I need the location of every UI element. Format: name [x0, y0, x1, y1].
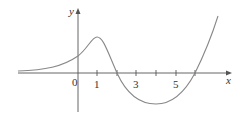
function-graph: 0 1 3 5 x y [0, 0, 237, 117]
y-axis [76, 8, 81, 112]
x-axis [18, 71, 232, 76]
tick-label-1: 1 [94, 78, 100, 90]
tick-label-3: 3 [133, 78, 139, 90]
y-axis-arrow-icon [76, 8, 81, 14]
origin-label: 0 [72, 76, 78, 88]
tick-label-5: 5 [173, 78, 179, 90]
function-curve [18, 16, 218, 104]
y-axis-label: y [68, 5, 74, 17]
x-axis-label: x [225, 74, 231, 86]
